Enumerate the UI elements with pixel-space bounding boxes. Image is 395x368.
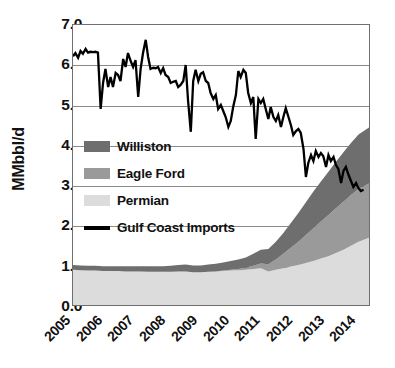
legend-label: Gulf Coast Imports [117,220,235,235]
legend-item-williston: Williston [84,133,274,160]
legend-swatch-icon [84,195,110,206]
legend-swatch-icon [84,168,110,179]
x-tick-label: 2009 [168,312,200,344]
x-tick-label: 2005 [41,312,73,344]
x-tick-label: 2006 [72,312,104,344]
x-tick-label: 2012 [263,312,295,344]
x-tick-label: 2010 [199,312,231,344]
legend-label: Williston [117,139,171,154]
legend-item-gulf-coast-imports: Gulf Coast Imports [84,214,274,241]
x-tick-label: 2007 [104,312,136,344]
legend-label: Permian [117,193,169,208]
legend-item-eagle-ford: Eagle Ford [84,160,274,187]
legend-line-icon [84,226,110,230]
x-tick-label: 2011 [231,312,263,344]
legend-item-permian: Permian [84,187,274,214]
chart-figure: MMbbl/d 7.0 6.0 5.0 4.0 3.0 2.0 1.0 0.0 … [0,0,395,368]
chart-legend: Williston Eagle Ford Permian Gulf Coast … [84,133,274,241]
x-tick-label: 2013 [294,312,326,344]
legend-label: Eagle Ford [117,166,185,181]
legend-swatch-icon [84,141,110,152]
x-tick-label: 2014 [326,312,358,344]
y-axis-title: MMbbl/d [10,109,28,209]
x-tick-label: 2008 [136,312,168,344]
